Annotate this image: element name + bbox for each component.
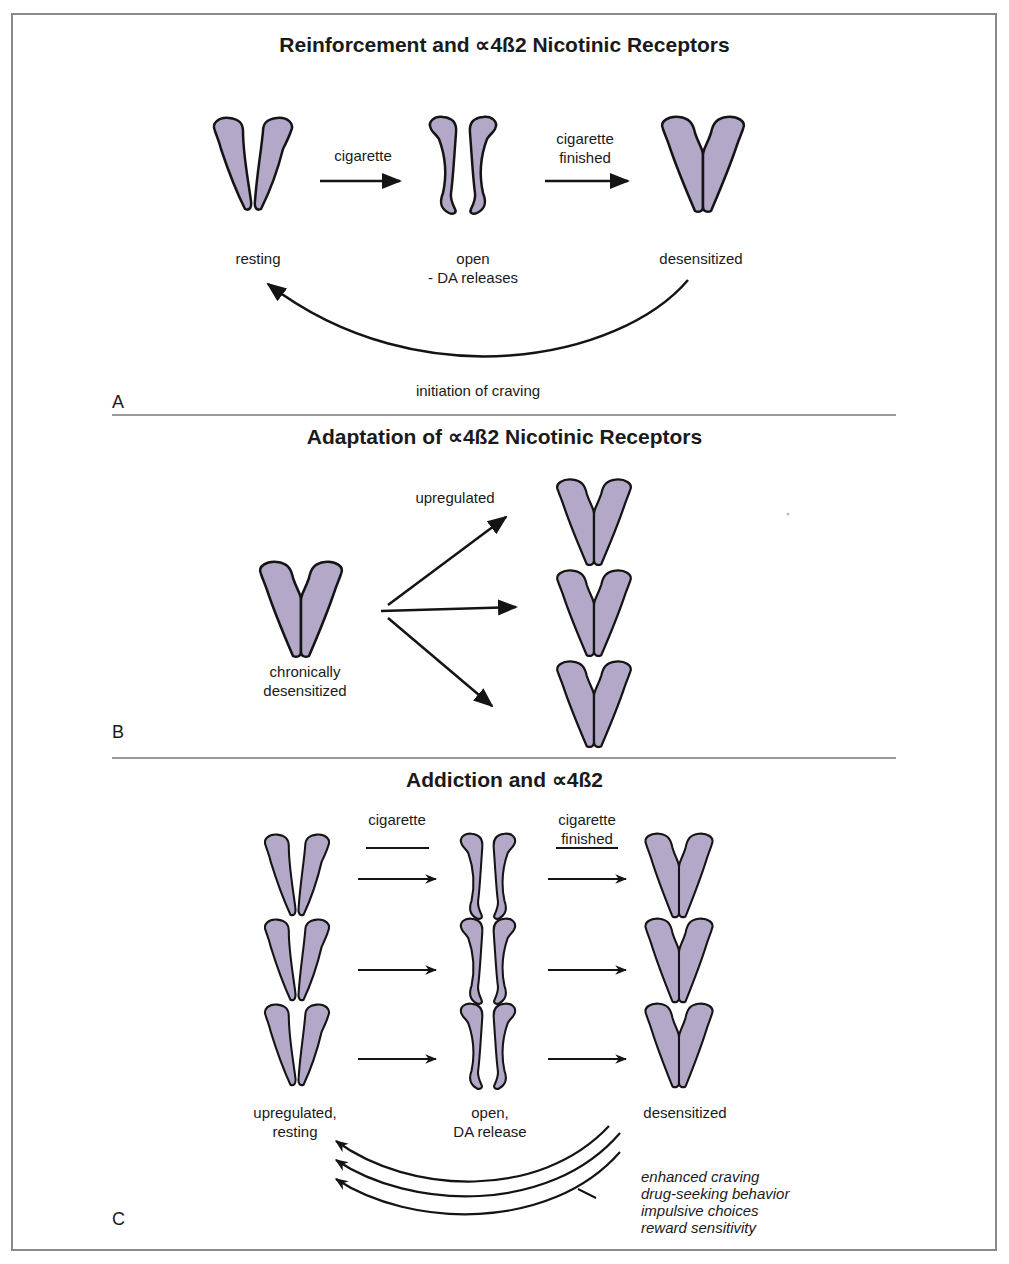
panel-a-receptors [214, 117, 744, 214]
effects-list: enhanced craving drug-seeking behavior i… [641, 1168, 789, 1236]
panel-b-title: Adaptation of ∝4ß2 Nicotinic Receptors [0, 425, 1009, 449]
state-label-desensitized-c: desensitized [620, 1103, 750, 1122]
effect-item: enhanced craving [641, 1168, 789, 1185]
receptor-resting-row1-icon [265, 835, 329, 916]
effect-item: drug-seeking behavior [641, 1185, 789, 1202]
arrow-upregulate-1 [388, 517, 506, 605]
state-label-desensitized: desensitized [636, 249, 766, 268]
receptor-chronically-desensitized-icon [260, 562, 342, 657]
source-label-line2: desensitized [245, 681, 365, 700]
arrow-label-line2: finished [540, 148, 630, 167]
state-c-resting-line2: resting [240, 1122, 350, 1141]
receptor-upregulated-2-icon [557, 570, 631, 655]
arrow-return-craving [268, 280, 688, 356]
panel-c-title: Addiction and ∝4ß2 [0, 768, 1009, 792]
state-label-open-da-release: open, DA release [435, 1103, 545, 1141]
panel-c-arrows [358, 879, 626, 1059]
receptor-desensitized-row2-icon [645, 919, 712, 1003]
arrow-label-cigarette: cigarette [318, 146, 408, 165]
receptor-resting-row3-icon [265, 1005, 329, 1086]
receptor-open-row2-icon [461, 919, 515, 1004]
state-label-open: open - DA releases [408, 249, 538, 287]
panel-letter-b: B [112, 722, 124, 743]
receptor-upregulated-3-icon [557, 661, 631, 746]
state-label-open-main: open [408, 249, 538, 268]
panel-letter-a: A [112, 392, 124, 413]
panel-letter-c: C [112, 1209, 125, 1230]
state-c-open-line2: DA release [435, 1122, 545, 1141]
state-c-resting-line1: upregulated, [240, 1103, 350, 1122]
effect-item: impulsive choices [641, 1202, 789, 1219]
arrow-label-line1: cigarette [540, 129, 630, 148]
receptor-upregulated-1-icon [557, 479, 631, 564]
receptor-open-row3-icon [461, 1004, 515, 1089]
panel-c-receptors [265, 834, 713, 1089]
receptor-resting-icon [214, 118, 292, 210]
source-label-line1: chronically [245, 662, 365, 681]
return-arrow-label: initiation of craving [388, 381, 568, 400]
state-c-open-line1: open, [435, 1103, 545, 1122]
receptor-open-row1-icon [461, 834, 515, 919]
divider-a-b [112, 414, 896, 416]
diagram-canvas [0, 0, 1009, 1264]
receptor-desensitized-row3-icon [645, 1004, 712, 1088]
effect-item: reward sensitivity [641, 1219, 789, 1236]
arrow-upregulate-3 [388, 618, 492, 706]
arrows-label-upregulated: upregulated [395, 488, 515, 507]
receptor-desensitized-row1-icon [645, 834, 712, 918]
arrow-label-c-line2: finished [542, 829, 632, 848]
receptor-resting-row2-icon [265, 920, 329, 1001]
arrow-upregulate-2 [381, 607, 516, 611]
arrow-label-c-line1: cigarette [542, 810, 632, 829]
arrow-label-cigarette-finished: cigarette finished [540, 129, 630, 167]
arrow-label-cigarette-finished-c: cigarette finished [542, 810, 632, 848]
source-label-chronically-desensitized: chronically desensitized [245, 662, 365, 700]
divider-b-c [112, 757, 896, 759]
panel-a-title: Reinforcement and ∝4ß2 Nicotinic Recepto… [0, 33, 1009, 57]
arrow-label-cigarette-c: cigarette [352, 810, 442, 829]
speck [787, 513, 790, 516]
receptor-desensitized-icon [662, 117, 744, 212]
state-label-resting: resting [203, 249, 313, 268]
state-label-upregulated-resting: upregulated, resting [240, 1103, 350, 1141]
state-label-open-sub: - DA releases [408, 268, 538, 287]
receptor-open-icon [430, 117, 496, 214]
